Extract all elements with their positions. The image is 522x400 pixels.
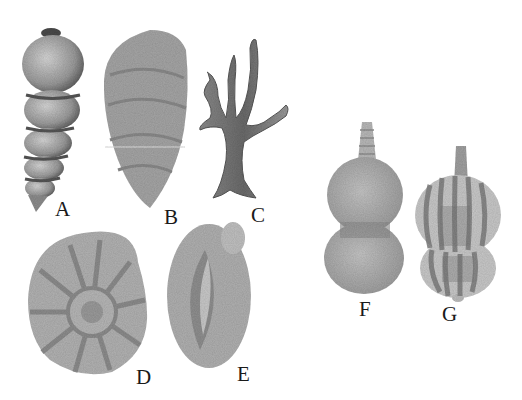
specimen-g (415, 146, 501, 302)
specimen-b (104, 30, 188, 208)
specimen-d (28, 232, 147, 375)
label-f: F (359, 299, 371, 320)
fossil-plate (0, 0, 522, 400)
specimen-f (324, 122, 404, 294)
label-e: E (237, 364, 250, 385)
specimen-c (200, 39, 288, 198)
label-b: B (164, 207, 178, 228)
label-c: C (251, 205, 265, 226)
specimen-a (22, 28, 84, 212)
label-a: A (55, 199, 70, 220)
specimen-e (167, 222, 251, 368)
label-d: D (136, 367, 151, 388)
label-g: G (442, 304, 457, 325)
